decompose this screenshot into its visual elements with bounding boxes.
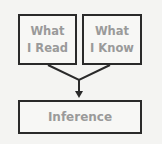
box-label-line1: What xyxy=(90,23,134,40)
inference-box: Inference xyxy=(18,100,142,134)
what-i-read-box: What I Read xyxy=(18,14,77,65)
box-label-line2: I Read xyxy=(27,40,68,57)
box-label-line2: I Know xyxy=(90,40,134,57)
what-i-know-box: What I Know xyxy=(82,14,142,65)
arrowhead-icon xyxy=(75,91,83,98)
box-label-line1: What xyxy=(27,23,68,40)
inference-label: Inference xyxy=(48,109,112,126)
